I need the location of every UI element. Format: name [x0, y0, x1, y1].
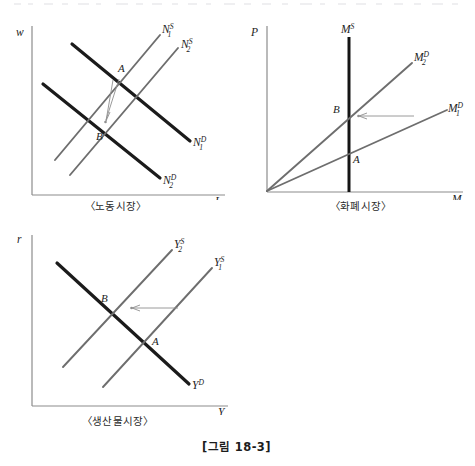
labor-y-axis-label: w	[16, 26, 24, 38]
label-point-B-labor: B	[96, 130, 103, 142]
caption-labor-market: 〈노동시장〉	[85, 198, 146, 213]
curve-money-demand-1	[267, 110, 447, 191]
label-curve-MD1: MD1	[447, 101, 464, 118]
figure-number-label: [그림 18-3]	[202, 438, 271, 454]
panel-money-market: P M MS MD2 MD1 B A	[240, 0, 475, 200]
label-curve-ND2: ND2	[162, 173, 177, 190]
money-y-axis-label: P	[250, 26, 258, 38]
curve-labor-demand-1	[72, 44, 190, 141]
label-point-A-labor: A	[117, 62, 125, 74]
label-curve-NS1: NS1	[161, 22, 174, 39]
caption-money-market: 〈화폐시장〉	[330, 198, 391, 213]
label-curve-MS: MS	[340, 22, 355, 35]
panel-labor-market: w L NS1 NS2 ND1 ND2 A B	[0, 0, 240, 200]
label-curve-NS2: NS2	[180, 37, 193, 54]
label-point-A-goods: A	[151, 335, 159, 347]
label-point-B-money: B	[333, 103, 340, 115]
labor-x-axis-label: L	[214, 195, 221, 200]
curve-goods-supply-1	[103, 268, 212, 387]
label-curve-YS2: YS2	[174, 237, 184, 254]
goods-y-axis-label: r	[17, 233, 22, 245]
curve-labor-supply-1	[55, 35, 160, 160]
label-curve-ND1: ND1	[192, 135, 207, 152]
money-shift-arrow-icon	[357, 113, 414, 119]
panel-goods-market: r Y YS2 YS1 YD B A	[0, 215, 260, 415]
goods-x-axis-label: Y	[218, 406, 226, 415]
label-point-A-money: A	[352, 153, 360, 165]
goods-shift-arrow-icon	[130, 305, 178, 311]
figure-root: w L NS1 NS2 ND1 ND2 A B	[0, 0, 475, 466]
label-curve-YS1: YS1	[214, 255, 224, 272]
money-x-axis-label: M	[451, 193, 463, 200]
label-curve-YD: YD	[192, 378, 204, 391]
curve-goods-supply-2	[63, 250, 172, 367]
caption-goods-market: 〈생산물시장〉	[82, 413, 153, 428]
curve-money-demand-2	[267, 63, 412, 191]
label-curve-MD2: MD2	[413, 50, 430, 67]
labor-shift-arrow-icon	[104, 79, 119, 123]
label-point-B-goods: B	[101, 292, 108, 304]
